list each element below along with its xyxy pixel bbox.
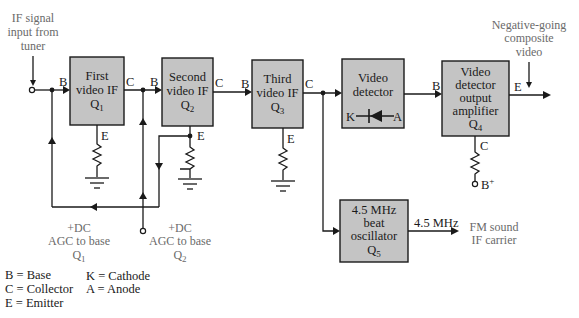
block-diagram: IF signal input from tuner Negative-goin… [0,0,579,318]
supply-terminal [472,181,477,186]
q4-line-4: amplifier [453,104,500,118]
block-beat-oscillator: 4.5 MHz beat oscillator Q5 [340,200,408,262]
q1-line-1: First [86,69,109,83]
q1-emitter-label: E [101,129,109,143]
legend-collector: C = Collector [5,282,74,296]
q3-base-label: B [241,77,249,91]
legend-base: B = Base [5,268,51,282]
legend-emitter: E = Emitter [5,296,64,310]
q3-line-1: Third [264,72,293,86]
output-note-line-3: video [516,45,543,59]
q5-line-3: oscillator [351,229,398,243]
svg-text:+DC: +DC [168,221,191,235]
diode-anode-label: A [393,110,402,124]
detector-line-2: detector [353,85,394,99]
block-third-video-if: Third video IF Q3 [252,60,303,128]
fm-note: FM sound IF carrier [469,220,518,247]
legend-cathode: K = Cathode [86,269,150,283]
output-note-line-1: Negative-going [492,18,567,32]
q1-ground-icon [85,178,109,188]
q1-emitter-resistor [93,125,101,177]
svg-text:Q1: Q1 [72,248,85,264]
q4-base-label: B [432,79,440,93]
output-note-arrowhead [526,82,532,88]
block-video-detector: Video detector K A [342,59,404,128]
q4-line-1: Video [461,65,491,79]
agc-q2-lower-arrow-up [139,192,147,199]
branch-to-oscillator [323,93,336,231]
q1-base-label: B [59,75,67,89]
block-second-video-if: Second video IF Q2 [162,58,213,126]
input-note-line-3: tuner [21,39,46,53]
q3-collector-label: C [305,77,313,91]
q5-line-2: beat [364,216,385,230]
q3-ground-icon [271,181,295,191]
q4-line-3: output [460,91,492,105]
agc-q1-note: +DC AGC to base Q1 [48,221,110,264]
q4-collector-label: C [480,139,488,153]
svg-text:+DC: +DC [67,221,90,235]
legend-anode: A = Anode [86,282,141,296]
agc-q2-arrow-up [139,118,147,125]
arrow-into-detector [335,89,342,97]
legend: B = Base C = Collector E = Emitter K = C… [5,268,150,310]
q3-line-2: video IF [256,86,298,100]
oscillator-output-label: 4.5 MHz [414,216,459,230]
supply-label: B+ [481,176,494,192]
arrow-into-q5 [333,227,340,235]
q4-collector-resistor [471,136,479,181]
input-terminal [29,87,34,92]
svg-text:Q2: Q2 [173,248,186,264]
q3-emitter-resistor [279,128,287,180]
agc-input-terminal [140,228,145,233]
input-note-line-2: input from [8,25,60,39]
detector-line-1: Video [358,71,388,85]
input-note-line-1: IF signal [12,11,55,25]
q2-line-2: video IF [166,84,208,98]
svg-text:AGC to base: AGC to base [48,234,110,248]
q2-collector-label: C [215,76,223,90]
agc-loop-arrow-left [90,203,97,211]
svg-text:AGC to base: AGC to base [149,234,211,248]
input-note-arrowhead [30,80,36,86]
q2-line-1: Second [169,70,207,84]
q4-line-2: detector [455,78,496,92]
agc-q2-emitter-arrow-down [155,163,163,170]
agc-q2-note: +DC AGC to base Q2 [149,221,211,264]
diode-cathode-label: K [346,110,355,124]
arrow-video-output [543,91,551,99]
q2-base-label: B [150,75,158,89]
block-video-output-amplifier: Video detector output amplifier Q4 [442,61,509,136]
q2-ground-icon [178,179,202,189]
q5-line-1: 4.5 MHz [352,203,397,217]
output-note-line-2: composite [504,31,553,45]
q1-collector-label: C [126,75,134,89]
svg-text:FM sound: FM sound [469,220,518,234]
q3-emitter-label: E [287,132,295,146]
q2-emitter-resistor [180,126,194,178]
input-note: IF signal input from tuner [8,11,60,86]
svg-text:IF carrier: IF carrier [472,233,517,247]
q1-line-2: video IF [76,83,118,97]
block-first-video-if: First video IF Q1 [70,57,124,125]
q2-emitter-label: E [197,129,205,143]
q4-emitter-label: E [514,80,522,94]
agc-q1-arrow-up [48,137,56,144]
